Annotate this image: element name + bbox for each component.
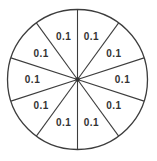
sector-label: 0.1: [25, 74, 40, 85]
sector-label: 0.1: [115, 74, 130, 85]
fraction-circle-svg: 0.10.10.10.10.10.10.10.10.10.1: [0, 0, 157, 161]
sector-label: 0.1: [56, 31, 71, 42]
sector-label: 0.1: [33, 100, 48, 111]
center-dot: [75, 77, 79, 81]
sector-label: 0.1: [56, 117, 71, 128]
sector-label: 0.1: [84, 117, 99, 128]
fraction-circle-diagram: 0.10.10.10.10.10.10.10.10.10.1: [0, 0, 157, 161]
sector-label: 0.1: [33, 48, 48, 59]
sector-label: 0.1: [106, 48, 121, 59]
sector-label: 0.1: [106, 100, 121, 111]
sector-label: 0.1: [84, 31, 99, 42]
